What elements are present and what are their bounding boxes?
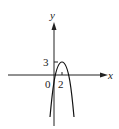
y-axis-arrow-icon — [52, 22, 57, 30]
origin-label: 0 — [45, 78, 51, 90]
x-tick-label: 2 — [58, 78, 64, 90]
graph: y x 3 0 2 — [0, 0, 119, 129]
x-axis-label: x — [107, 69, 113, 81]
x-axis-arrow-icon — [100, 73, 108, 78]
y-tick-label: 3 — [43, 56, 49, 68]
y-axis-label: y — [49, 9, 55, 21]
